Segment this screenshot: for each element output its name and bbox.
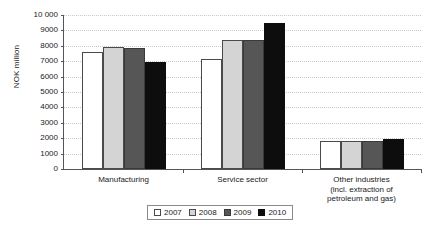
bar-2008-3[interactable] bbox=[341, 141, 362, 169]
legend-label-2009: 2009 bbox=[234, 209, 252, 217]
bar-series-container bbox=[64, 15, 421, 169]
bar-group bbox=[64, 15, 183, 169]
y-tick-label: 10 000 bbox=[34, 11, 64, 19]
bar-group bbox=[302, 15, 421, 169]
legend-swatch-2009 bbox=[224, 209, 231, 216]
bar-2010-3[interactable] bbox=[383, 139, 404, 169]
x-category-label-line: Service sector bbox=[217, 175, 268, 184]
x-category-label: Other industries(incl. extraction ofpetr… bbox=[327, 175, 396, 204]
legend-label-2007: 2007 bbox=[164, 209, 182, 217]
bar-2007-2[interactable] bbox=[201, 59, 222, 169]
x-category-label: Manufacturing bbox=[98, 175, 149, 185]
x-tick-mark bbox=[183, 169, 184, 173]
x-category-label-line: Other industries bbox=[333, 175, 389, 184]
y-axis-title: NOK million bbox=[12, 27, 21, 107]
x-tick-mark bbox=[302, 169, 303, 173]
legend-label-2008: 2008 bbox=[199, 209, 217, 217]
legend-item-2010[interactable]: 2010 bbox=[258, 209, 286, 217]
bar-2007-1[interactable] bbox=[82, 52, 103, 169]
bar-2008-1[interactable] bbox=[103, 47, 124, 169]
legend-item-2007[interactable]: 2007 bbox=[154, 209, 182, 217]
bar-2008-2[interactable] bbox=[222, 40, 243, 169]
bar-2009-1[interactable] bbox=[124, 48, 145, 169]
x-category-label: Service sector bbox=[217, 175, 268, 185]
bar-chart-figure: NOK million 0100020003000400050006000700… bbox=[0, 0, 433, 230]
y-tick-mark bbox=[61, 169, 65, 170]
legend-item-2008[interactable]: 2008 bbox=[189, 209, 217, 217]
legend-swatch-2007 bbox=[154, 209, 161, 216]
legend-swatch-2010 bbox=[258, 209, 265, 216]
legend-label-2010: 2010 bbox=[268, 209, 286, 217]
x-category-label-line: Manufacturing bbox=[98, 175, 149, 184]
bar-group bbox=[183, 15, 302, 169]
x-tick-mark bbox=[421, 169, 422, 173]
x-category-label-line: petroleum and gas) bbox=[327, 194, 396, 203]
x-category-label-line: (incl. extraction of bbox=[330, 185, 393, 194]
plot-area: 010002000300040005000600070008000900010 … bbox=[63, 15, 421, 170]
bar-2010-1[interactable] bbox=[145, 62, 166, 169]
bar-2009-3[interactable] bbox=[362, 141, 383, 169]
bar-2010-2[interactable] bbox=[264, 23, 285, 169]
chart-legend: 2007 2008 2009 2010 bbox=[147, 205, 293, 220]
bar-2007-3[interactable] bbox=[320, 141, 341, 169]
bar-2009-2[interactable] bbox=[243, 40, 264, 169]
legend-swatch-2008 bbox=[189, 209, 196, 216]
legend-item-2009[interactable]: 2009 bbox=[224, 209, 252, 217]
